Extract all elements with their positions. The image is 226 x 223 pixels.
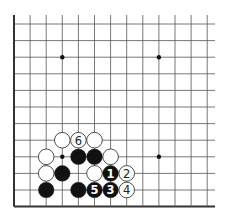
white-stone-icon xyxy=(103,149,119,165)
black-stone-icon xyxy=(71,182,87,198)
move-number-label: 5 xyxy=(90,183,98,197)
star-point xyxy=(157,155,161,159)
white-stone-icon xyxy=(38,149,54,165)
black-stone-move-5: 5 xyxy=(87,182,103,198)
stones-layer: 612534 xyxy=(38,132,134,197)
star-point xyxy=(60,155,64,159)
white-stone xyxy=(38,166,54,182)
black-stone-icon xyxy=(71,149,87,165)
white-stone-icon xyxy=(38,166,54,182)
black-stone-icon xyxy=(87,149,103,165)
black-stone-icon xyxy=(38,182,54,198)
white-stone-icon xyxy=(55,132,71,148)
white-stone xyxy=(87,166,103,182)
white-stone xyxy=(38,149,54,165)
black-stone xyxy=(71,149,87,165)
black-stone-icon xyxy=(55,166,71,182)
white-stone xyxy=(103,149,119,165)
star-point xyxy=(157,55,161,59)
white-stone-move-2: 2 xyxy=(119,166,135,182)
black-stone-move-3: 3 xyxy=(103,182,119,198)
star-point xyxy=(60,55,64,59)
black-stone xyxy=(38,182,54,198)
white-stone-move-6: 6 xyxy=(71,132,87,148)
white-stone xyxy=(55,132,71,148)
move-number-label: 3 xyxy=(107,183,115,197)
white-stone-icon xyxy=(87,132,103,148)
move-number-label: 6 xyxy=(75,134,82,148)
move-number-label: 1 xyxy=(107,167,115,181)
white-stone xyxy=(87,132,103,148)
go-board: 612534 xyxy=(0,0,226,223)
black-stone xyxy=(87,149,103,165)
move-number-label: 2 xyxy=(123,167,130,181)
diagram-caption xyxy=(12,218,30,223)
black-stone xyxy=(71,182,87,198)
white-stone-move-4: 4 xyxy=(119,182,135,198)
move-number-label: 4 xyxy=(123,183,130,197)
black-stone xyxy=(55,166,71,182)
white-stone-icon xyxy=(87,166,103,182)
black-stone-move-1: 1 xyxy=(103,166,119,182)
